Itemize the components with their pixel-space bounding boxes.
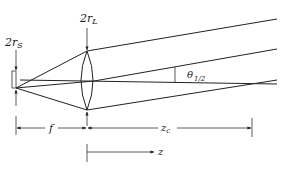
lens-size-label: 2rL [79, 12, 98, 26]
output-ray-center [94, 49, 277, 81]
z-axis-indicator: z [87, 144, 164, 162]
half-angle-label: θ1/2 [187, 69, 206, 83]
output-rays [87, 19, 277, 110]
optics-diagram: 2rS 2rL θ1/2 f zc [0, 0, 285, 169]
output-ray-top [87, 19, 277, 51]
output-ray-bottom [87, 80, 277, 110]
dimension-lines: f zc [16, 116, 252, 137]
source-size-label: 2rS [4, 36, 23, 50]
optical-axis [20, 80, 277, 84]
source-rectangle [12, 71, 16, 88]
axis-coordinate-label: z [157, 146, 164, 157]
focal-length-label: f [48, 122, 55, 135]
source [12, 50, 16, 106]
lens [81, 28, 93, 126]
ray-to-lens-bottom [16, 88, 87, 110]
critical-distance-label: zc [160, 122, 170, 135]
